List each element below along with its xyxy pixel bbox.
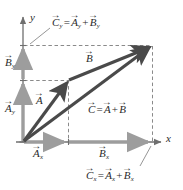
- label-ay: → Ay: [5, 103, 15, 115]
- axis-label-y: y: [30, 12, 35, 23]
- by-symbol: → By: [5, 57, 15, 69]
- vector-addition-figure: y x → A → B → Ay → By → Ax →: [0, 0, 183, 190]
- eq-b-symbol: → B: [119, 104, 126, 115]
- equation-y-components: → Cy = → Ay + → By: [52, 17, 100, 29]
- eq-y-plus: +: [82, 16, 88, 28]
- eq-cy-symbol: → Cy: [52, 17, 63, 29]
- eq-ay-symbol: → Ay: [71, 17, 81, 29]
- eq-x-equals: =: [98, 169, 104, 181]
- label-bx: → Bx: [99, 148, 109, 160]
- label-vector-b: → B: [86, 53, 93, 64]
- ay-symbol: → Ay: [5, 103, 15, 115]
- ax-symbol: → Ax: [33, 148, 43, 160]
- eq-by-symbol: → By: [90, 17, 100, 29]
- eq-cx-symbol: → Cx: [86, 170, 97, 182]
- label-ax: → Ax: [33, 148, 43, 160]
- leader-line-cy: [30, 28, 50, 44]
- eq-a-symbol: → A: [104, 104, 111, 115]
- axis-ticks: [20, 46, 69, 146]
- bx-symbol: → Bx: [99, 148, 109, 160]
- eq-x-plus: +: [116, 169, 122, 181]
- equation-x-components: → Cx = → Ax + → Bx: [86, 170, 134, 182]
- vector-b: [69, 48, 148, 80]
- eq-plus: +: [112, 103, 118, 115]
- leader-line-cx: [140, 146, 151, 166]
- eq-bx-symbol: → Bx: [124, 170, 134, 182]
- label-by: → By: [5, 57, 15, 69]
- label-vector-a: → A: [36, 95, 43, 106]
- vector-b-symbol: → B: [86, 53, 93, 64]
- equation-resultant: → C = → A + → B: [88, 104, 126, 115]
- eq-equals: =: [97, 103, 103, 115]
- eq-y-equals: =: [64, 16, 70, 28]
- eq-c-symbol: → C: [88, 104, 95, 115]
- vector-a-symbol: → A: [36, 95, 43, 106]
- axis-label-x: x: [166, 133, 171, 144]
- eq-ax-symbol: → Ax: [105, 170, 115, 182]
